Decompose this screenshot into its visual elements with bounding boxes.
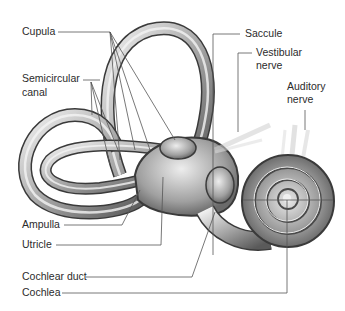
label-auditory-nerve-line1: Auditory	[287, 80, 326, 93]
label-semicircular-canal-line2: canal	[22, 86, 47, 99]
cochlea-spiral	[242, 155, 334, 247]
label-semicircular-canal-line1: Semicircular	[22, 72, 80, 85]
label-cochlea: Cochlea	[22, 286, 61, 299]
label-vestibular-nerve-line2: nerve	[256, 59, 282, 72]
label-vestibular-nerve-line1: Vestibular	[256, 46, 302, 59]
vestibular-nerve	[215, 125, 270, 152]
label-cochlear-duct: Cochlear duct	[22, 270, 87, 283]
label-ampulla: Ampulla	[22, 218, 60, 231]
label-auditory-nerve-line2: nerve	[287, 93, 313, 106]
label-utricle: Utricle	[22, 238, 52, 251]
inner-ear-diagram: Cupula Semicircular canal Saccule Vestib…	[0, 0, 345, 311]
label-cupula: Cupula	[22, 25, 55, 38]
label-saccule: Saccule	[245, 27, 282, 40]
